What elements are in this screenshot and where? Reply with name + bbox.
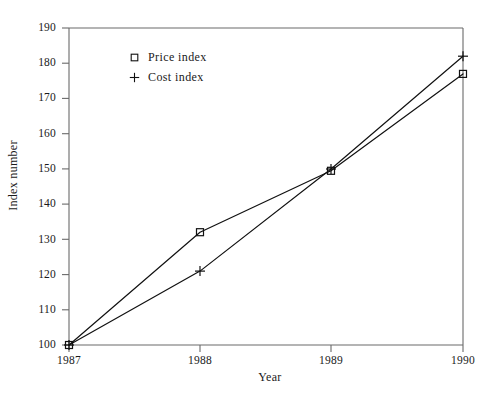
legend-label-price-index: Price index bbox=[142, 50, 207, 65]
square-marker-icon bbox=[126, 53, 142, 62]
y-tick-label-140: 140 bbox=[18, 198, 56, 210]
legend-label-cost-index: Cost index bbox=[142, 70, 204, 85]
x-tick-label-1987: 1987 bbox=[43, 355, 95, 367]
y-tick-label-180: 180 bbox=[18, 57, 56, 69]
y-tick-label-160: 160 bbox=[18, 128, 56, 140]
x-tick-label-1989: 1989 bbox=[305, 355, 357, 367]
legend-item-cost-index: Cost index bbox=[126, 68, 256, 86]
x-tick-label-1990: 1990 bbox=[437, 355, 489, 367]
y-axis-ticks bbox=[62, 28, 69, 345]
y-tick-label-130: 130 bbox=[18, 234, 56, 246]
y-tick-label-150: 150 bbox=[18, 163, 56, 175]
x-axis-ticks bbox=[69, 345, 463, 352]
marker-square bbox=[66, 70, 467, 348]
y-tick-label-170: 170 bbox=[18, 92, 56, 104]
series-cost-index bbox=[64, 51, 468, 350]
y-tick-label-120: 120 bbox=[18, 269, 56, 281]
y-axis-title: Index number bbox=[6, 116, 21, 236]
y-tick-label-100: 100 bbox=[18, 339, 56, 351]
y-tick-label-110: 110 bbox=[18, 304, 56, 316]
x-axis-title: Year bbox=[0, 370, 489, 385]
y-tick-label-190: 190 bbox=[18, 22, 56, 34]
legend-item-price-index: Price index bbox=[126, 48, 256, 66]
plus-marker-icon bbox=[126, 72, 142, 83]
series-price-index bbox=[66, 70, 467, 348]
marker-plus bbox=[64, 51, 468, 350]
chart-legend: Price index Cost index bbox=[126, 48, 256, 88]
x-tick-label-1988: 1988 bbox=[174, 355, 226, 367]
line-chart: 190 180 170 160 150 140 130 120 110 100 … bbox=[0, 0, 489, 393]
